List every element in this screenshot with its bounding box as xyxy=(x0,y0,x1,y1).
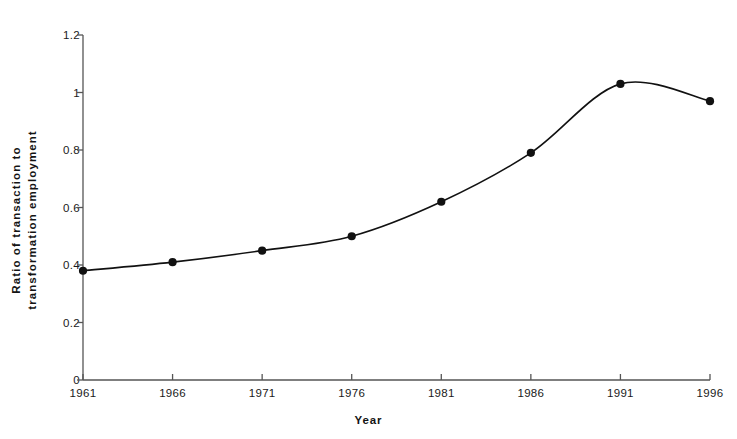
chart-figure: Ratio of transaction to transformation e… xyxy=(0,0,737,439)
x-axis-tick-marks xyxy=(83,374,710,380)
data-point-marker xyxy=(437,198,445,206)
data-point-marker xyxy=(258,247,266,255)
axis-lines xyxy=(83,35,710,380)
data-point-marker xyxy=(168,258,176,266)
data-point-marker xyxy=(527,149,535,157)
series-line xyxy=(83,82,710,271)
data-point-marker xyxy=(348,232,356,240)
plot-area xyxy=(0,0,737,439)
data-point-marker xyxy=(79,267,87,275)
data-point-marker xyxy=(706,97,714,105)
series-markers xyxy=(79,80,714,275)
y-axis-tick-marks xyxy=(77,35,83,380)
x-axis-title: Year xyxy=(0,414,737,426)
data-point-marker xyxy=(616,80,624,88)
